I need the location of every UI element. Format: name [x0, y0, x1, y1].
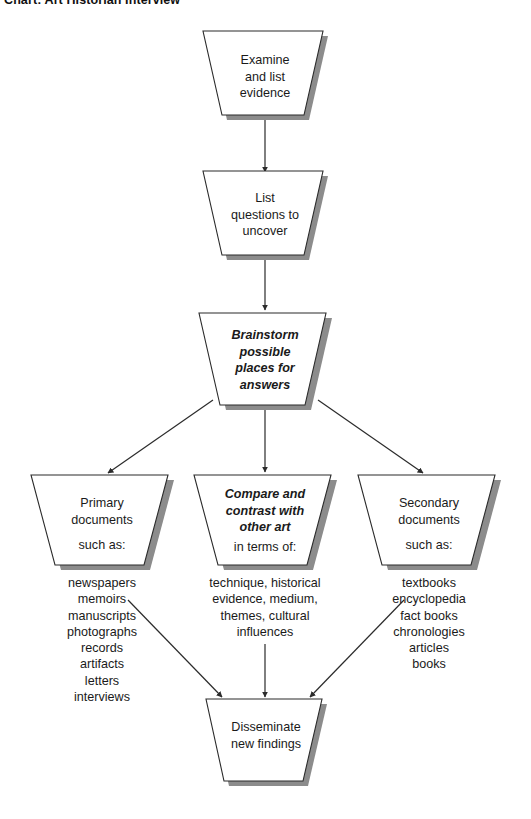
- node-disseminate-label: Disseminate new findings: [203, 719, 329, 752]
- node-compare-contrast-sublabel: in terms of:: [191, 539, 339, 556]
- node-primary-documents-sublabel: such as:: [28, 537, 176, 554]
- node-secondary-documents-sublabel: such as:: [355, 537, 503, 554]
- node-compare-contrast[interactable]: Compare and contrast with other art in t…: [191, 474, 339, 572]
- node-examine-label: Examine and list evidence: [200, 52, 330, 102]
- flowchart-canvas: Examine and list evidence List questions…: [0, 0, 531, 819]
- list-primary-examples: newspapers memoirs manuscripts photograp…: [28, 575, 176, 705]
- node-examine[interactable]: Examine and list evidence: [200, 30, 330, 122]
- node-brainstorm-label: Brainstorm possible places for answers: [196, 327, 334, 393]
- node-secondary-documents[interactable]: Secondary documents such as:: [355, 474, 503, 572]
- list-secondary-examples: textbooks encyclopedia fact books chrono…: [355, 575, 503, 673]
- node-primary-documents[interactable]: Primary documents such as:: [28, 474, 176, 572]
- node-brainstorm[interactable]: Brainstorm possible places for answers: [196, 312, 334, 412]
- node-list-questions-label: List questions to uncover: [200, 190, 330, 240]
- node-secondary-documents-label: Secondary documents: [355, 495, 503, 528]
- list-compare-terms: technique, historical evidence, medium, …: [186, 575, 344, 640]
- node-list-questions[interactable]: List questions to uncover: [200, 170, 330, 262]
- node-compare-contrast-label: Compare and contrast with other art: [191, 486, 339, 536]
- node-primary-documents-label: Primary documents: [28, 495, 176, 528]
- node-disseminate[interactable]: Disseminate new findings: [203, 698, 329, 788]
